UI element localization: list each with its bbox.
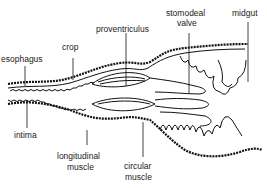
label-midgut: midgut [232,9,258,18]
stomodeal-valve [150,78,205,94]
label-stomodeal-valve-2: valve [177,19,197,28]
label-circular-muscle-2: muscle [125,173,152,182]
label-intima: intima [14,131,37,140]
proventriculus-fold [92,73,150,87]
label-esophagus: esophagus [1,55,43,64]
label-crop: crop [62,43,79,52]
label-circular-muscle-1: circular [124,162,151,171]
label-longitudinal-muscle-2: muscle [67,163,94,172]
midgut-epithelium [180,56,246,94]
label-stomodeal-valve-1: stomodeal [166,9,205,18]
label-proventriculus: proventriculus [96,25,149,34]
label-longitudinal-muscle-1: longitudinal [57,152,100,161]
